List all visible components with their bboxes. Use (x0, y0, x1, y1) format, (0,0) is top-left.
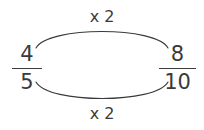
top-curved-arrow-icon (36, 32, 168, 49)
left-fraction-numerator: 4 (12, 44, 42, 66)
left-fraction: 4 5 (12, 44, 42, 93)
right-fraction-numerator: 8 (159, 44, 196, 66)
bottom-curved-arrow-icon (36, 82, 168, 99)
right-fraction-denominator: 10 (159, 71, 196, 93)
right-fraction: 8 10 (159, 44, 196, 93)
top-multiplier-label: x 2 (72, 7, 132, 26)
left-fraction-denominator: 5 (12, 71, 42, 93)
equivalent-fractions-diagram: 4 5 8 10 x 2 x 2 (0, 0, 204, 130)
left-fraction-bar (12, 68, 42, 69)
bottom-multiplier-label: x 2 (72, 104, 132, 123)
right-fraction-bar (159, 68, 196, 69)
